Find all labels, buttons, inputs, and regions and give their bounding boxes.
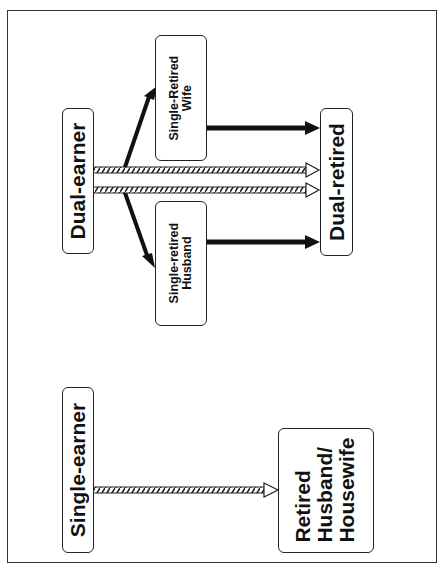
node-label: Single-retired Husband — [168, 223, 194, 304]
node-single-retired-husband: Single-retired Husband — [155, 201, 207, 326]
edge-husband-to-dual-retired — [207, 235, 320, 249]
node-single-earner: Single-earner — [62, 387, 94, 553]
node-retired-husband-housewife: Retired Husband/ Housewife — [278, 428, 374, 553]
node-label: Single-earner — [67, 403, 89, 537]
node-label: Dual-earner — [67, 123, 89, 240]
node-label: Retired Husband/ Housewife — [293, 438, 359, 543]
node-label: Dual-retired — [325, 123, 347, 241]
node-label: Single-Retired Wife — [168, 56, 194, 141]
edge-single-earner-to-retired — [93, 483, 278, 497]
edge-dual-earner-to-husband — [124, 190, 155, 268]
edge-wife-to-dual-retired — [207, 121, 320, 135]
node-single-retired-wife: Single-Retired Wife — [155, 35, 207, 161]
edge-dual-earner-to-wife — [124, 86, 157, 170]
node-dual-retired: Dual-retired — [320, 108, 353, 256]
node-dual-earner: Dual-earner — [62, 108, 94, 254]
